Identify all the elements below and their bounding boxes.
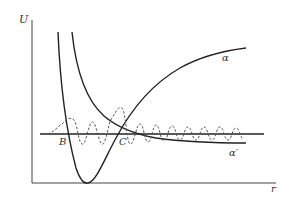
wavefunction-dashed	[48, 108, 244, 145]
potential-energy-figure	[0, 0, 294, 204]
y-axis-label: U	[19, 14, 28, 25]
point-b-label: B	[59, 137, 66, 147]
point-c-label: C	[119, 137, 127, 147]
x-axis-label: r	[271, 184, 276, 194]
curve-alpha	[58, 32, 246, 183]
curve-alpha-label: α	[222, 53, 229, 63]
curve-alpha-prime	[72, 32, 246, 143]
curve-alpha-prime-label: α′	[229, 148, 238, 158]
